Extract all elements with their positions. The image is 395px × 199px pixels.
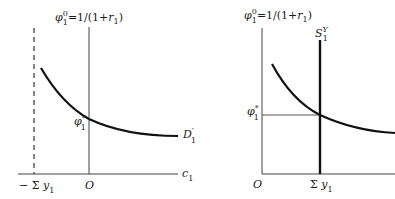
demand-curve xyxy=(272,64,395,133)
supply-label: SY1 xyxy=(315,25,329,43)
y-axis-label: φ01=1/(1+r1) xyxy=(244,7,312,25)
demand-curve xyxy=(41,68,178,136)
origin-label: O xyxy=(253,178,262,191)
x-tick-label: Σ y1 xyxy=(310,178,333,194)
equilibrium-label: φ*1 xyxy=(247,104,259,122)
origin-label: O xyxy=(85,179,94,192)
right-panel: φ01=1/(1+r1) SY1 φ*1 O Σ y1 xyxy=(244,7,395,194)
curve-label: D′1 xyxy=(182,127,196,145)
x-axis-label: c1 xyxy=(182,167,193,183)
left-panel: φ01=1/(1+r1) φ*1 D′1 c1 O − Σ y1 xyxy=(18,9,196,195)
equilibrium-label: φ*1 xyxy=(74,114,86,132)
diagram-canvas: φ01=1/(1+r1) φ*1 D′1 c1 O − Σ y1 φ01=1/(… xyxy=(0,0,395,199)
y-axis-label: φ01=1/(1+r1) xyxy=(55,9,123,27)
dashed-line-label: − Σ y1 xyxy=(19,179,54,195)
